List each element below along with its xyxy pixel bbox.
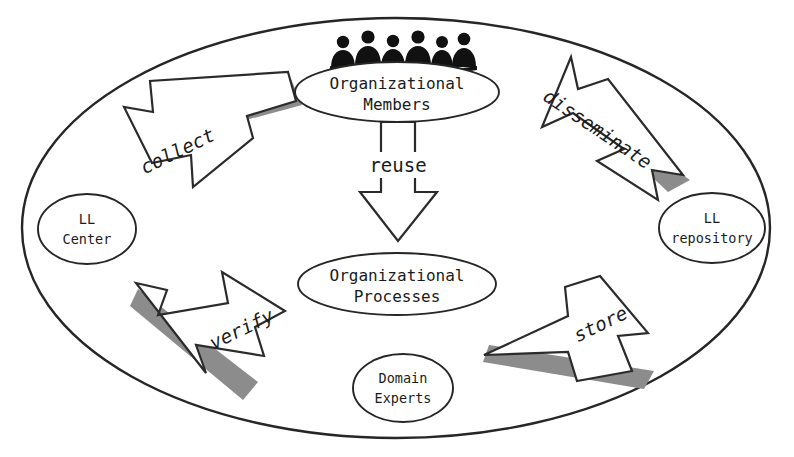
node-ll-repository-label-line2: repository	[671, 230, 752, 246]
node-ll-repository-label-line1: LL	[704, 210, 720, 226]
node-organizational-members-label-line1: Organizational	[330, 74, 465, 93]
node-organizational-processes-label-line2: Processes	[354, 287, 441, 306]
node-domain-experts-ellipse	[353, 354, 453, 422]
node-domain-experts-label-line1: Domain	[379, 370, 428, 386]
node-domain-experts: Domain Experts	[353, 354, 453, 422]
node-domain-experts-label-line2: Experts	[375, 390, 432, 406]
node-ll-center-label-line1: LL	[79, 211, 95, 227]
arrow-reuse-label: reuse	[369, 154, 426, 176]
node-organizational-processes-label-line1: Organizational	[330, 266, 465, 285]
node-organizational-processes: Organizational Processes	[298, 253, 496, 315]
node-ll-center: LL Center	[38, 194, 136, 264]
node-ll-repository: LL repository	[659, 193, 765, 263]
node-ll-center-label-line2: Center	[63, 231, 112, 247]
node-ll-center-ellipse	[38, 194, 136, 264]
lessons-learned-cycle-diagram: collect disseminate verify store reuse	[0, 0, 794, 457]
diagram-canvas: collect disseminate verify store reuse	[0, 0, 794, 457]
node-ll-repository-ellipse	[659, 193, 765, 263]
node-organizational-members-label-line2: Members	[363, 95, 430, 114]
